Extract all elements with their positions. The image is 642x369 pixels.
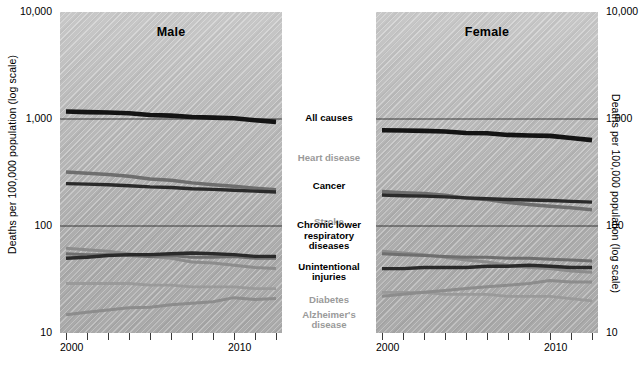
x-axis-ticks-male <box>60 333 282 340</box>
x-tick <box>466 333 467 340</box>
x-tick <box>424 333 425 340</box>
x-tick <box>171 333 172 340</box>
cause-label-cancer: Cancer <box>284 181 374 192</box>
y-tick-1000: 1,000 <box>26 113 52 124</box>
y-axis-title-left: Deaths per 100,000 population (log scale… <box>6 94 18 254</box>
x-tick <box>403 333 404 340</box>
x-tick <box>550 333 551 340</box>
y-tick-10: 10 <box>40 327 52 338</box>
x-tick <box>382 333 383 340</box>
cause-label-alzheimer-s-disease: Alzheimer's disease <box>284 310 374 331</box>
plot-area-male <box>60 12 282 333</box>
x-axis-ticks-female <box>376 333 598 340</box>
series-line-diabetes <box>66 284 276 289</box>
x-axis-label-male-end: 2010 <box>228 341 251 353</box>
x-tick <box>234 333 235 340</box>
x-tick <box>487 333 488 340</box>
cause-label-all-causes: All causes <box>284 113 374 124</box>
x-tick <box>108 333 109 340</box>
cause-label-chronic-lower-respiratory-diseases: Chronic lower respiratory diseases <box>284 220 374 252</box>
cause-label-diabetes: Diabetes <box>284 295 374 306</box>
x-tick <box>571 333 572 340</box>
series-line-all-causes <box>66 112 276 122</box>
x-axis-label-female-end: 2010 <box>544 341 567 353</box>
panel-title-male: Male <box>60 25 282 39</box>
y-tick-100: 100 <box>34 220 52 231</box>
x-axis-label-female-start: 2000 <box>376 341 399 353</box>
x-tick <box>213 333 214 340</box>
x-tick <box>529 333 530 340</box>
cause-label-unintentional-injuries: Unintentional injuries <box>284 262 374 283</box>
plot-area-female <box>376 12 598 333</box>
series-line-all-causes <box>382 130 592 140</box>
y-tick-10: 10 <box>606 327 618 338</box>
x-axis-label-male-start: 2000 <box>60 341 83 353</box>
y-axis-labels-right: 101001,00010,000 <box>602 0 642 369</box>
y-axis-title-right: Deaths per 100,000 population (log scale… <box>610 94 622 254</box>
y-tick-10000: 10,000 <box>20 6 52 17</box>
x-tick <box>150 333 151 340</box>
cause-legend-column: All causesHeart diseaseCancerStrokeChron… <box>284 12 374 333</box>
x-tick <box>445 333 446 340</box>
series-line-chronic-lower-respiratory-diseases <box>382 254 592 261</box>
x-tick <box>255 333 256 340</box>
x-tick <box>66 333 67 340</box>
y-tick-10000: 10,000 <box>606 6 638 17</box>
panel-male: Male <box>60 12 282 333</box>
x-tick <box>276 333 277 340</box>
x-tick <box>192 333 193 340</box>
series-line-unintentional-injuries <box>382 265 592 268</box>
x-tick <box>592 333 593 340</box>
series-line-alzheimer-s-disease <box>66 298 276 315</box>
cause-label-heart-disease: Heart disease <box>284 153 374 164</box>
panel-title-female: Female <box>376 25 598 39</box>
x-tick <box>129 333 130 340</box>
panel-female: Female <box>376 12 598 333</box>
x-tick <box>87 333 88 340</box>
x-tick <box>508 333 509 340</box>
